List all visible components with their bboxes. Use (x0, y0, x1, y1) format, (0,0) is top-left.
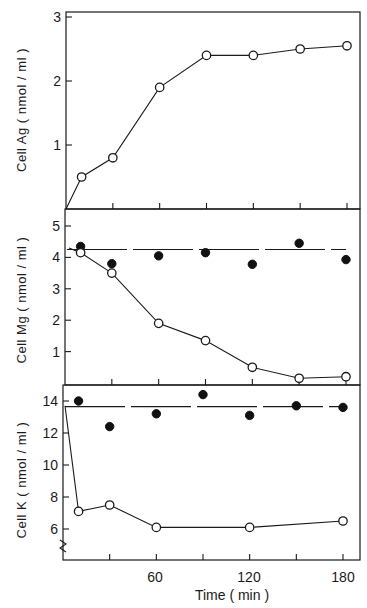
open-circle-marker (245, 523, 253, 531)
axis-break-icon (60, 540, 66, 552)
mg-y-axis-label: Cell Mg ( nmol / ml ) (14, 237, 29, 364)
open-circle-marker (105, 501, 113, 509)
three-panel-time-course-chart: Cell Ag ( nmol / ml ) Cell Mg ( nmol / m… (0, 0, 367, 608)
panel-ag-frame (66, 12, 360, 209)
y-tick-label: 5 (52, 218, 60, 234)
filled-circle-marker (295, 239, 303, 247)
open-circle-marker (202, 51, 210, 59)
open-circle-marker (201, 336, 209, 344)
x-axis-title: Time ( min ) (195, 587, 269, 603)
y-tick-label: 6 (50, 521, 58, 537)
open-circle-marker (248, 363, 256, 371)
y-tick-label: 14 (42, 393, 58, 409)
y-tick-label: 2 (52, 312, 60, 328)
filled-circle-marker (74, 397, 82, 405)
y-tick-label: 4 (52, 249, 60, 265)
panel-mg-frame (65, 209, 360, 385)
panel-bottom: 68101214 (42, 390, 347, 560)
open-circle-marker (296, 45, 304, 53)
open-circle-marker (109, 154, 117, 162)
open-circle-marker (342, 373, 350, 381)
open-circle-marker (249, 51, 257, 59)
open-circle-marker (339, 517, 347, 525)
y-tick-label: 8 (50, 489, 58, 505)
x-tick-label-180: 180 (331, 569, 355, 585)
open-circle-marker (152, 523, 160, 531)
open-circle-marker (77, 173, 85, 181)
open-circle-marker (155, 83, 163, 91)
filled-circle-marker (152, 410, 160, 418)
filled-circle-marker (248, 260, 256, 268)
y-tick-label: 10 (42, 457, 58, 473)
open-circle-marker (108, 269, 116, 277)
k-y-axis-label: Cell K ( nmol / ml ) (14, 422, 29, 539)
open-circle-marker (76, 248, 84, 256)
panel-top: 123 (53, 9, 351, 209)
open-circle-marker (343, 42, 351, 50)
filled-circle-marker (245, 411, 253, 419)
y-tick-label: 12 (42, 425, 58, 441)
open-circle-marker (74, 507, 82, 515)
filled-circle-marker (108, 259, 116, 267)
x-tick-label-120: 120 (237, 569, 261, 585)
filled-circle-marker (342, 255, 350, 263)
filled-circle-marker (154, 252, 162, 260)
y-tick-label: 2 (53, 73, 61, 89)
open-circle-marker (295, 374, 303, 382)
filled-circle-marker (105, 422, 113, 430)
y-tick-label: 1 (53, 137, 61, 153)
ag-y-axis-label: Cell Ag ( nmol / ml ) (14, 48, 29, 172)
y-tick-label: 3 (53, 9, 61, 25)
y-tick-label: 3 (52, 281, 60, 297)
panel-k-frame (63, 385, 360, 560)
y-tick-label: 1 (52, 344, 60, 360)
x-tick-label-60: 60 (147, 569, 163, 585)
open-circle-marker (154, 319, 162, 327)
plot-layer: 1231234568101214 (42, 9, 351, 560)
filled-circle-marker (201, 248, 209, 256)
filled-circle-marker (339, 403, 347, 411)
series-line (66, 46, 347, 209)
filled-circle-marker (292, 402, 300, 410)
panel-middle: 12345 (52, 218, 350, 385)
filled-circle-marker (199, 390, 207, 398)
